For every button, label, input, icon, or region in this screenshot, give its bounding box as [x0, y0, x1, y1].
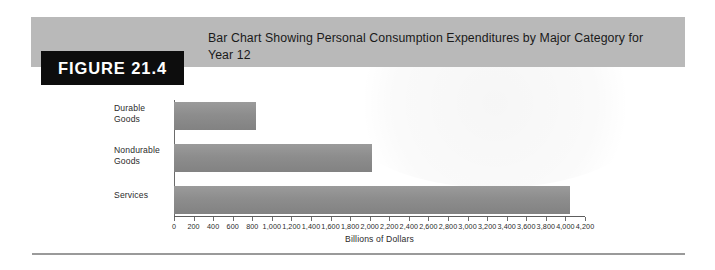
x-axis-tick-label: 2,800: [439, 222, 458, 231]
x-axis-tick-label: 3,800: [537, 222, 556, 231]
x-axis-tick-label: 1,000: [263, 222, 282, 231]
x-axis-tick: [291, 217, 292, 221]
x-axis-line: [174, 216, 585, 217]
x-axis-tick: [428, 217, 429, 221]
x-axis-tick-label: 4,000: [556, 222, 575, 231]
category-label: Durable Goods: [114, 103, 172, 124]
x-axis-tick: [370, 217, 371, 221]
x-axis-tick: [468, 217, 469, 221]
bottom-divider: [32, 253, 685, 255]
x-axis-tick: [585, 217, 586, 221]
bar: [174, 102, 256, 130]
x-axis-tick-label: 2,000: [360, 222, 379, 231]
x-axis-tick-label: 2,200: [380, 222, 399, 231]
x-axis-tick: [194, 217, 195, 221]
x-axis-tick: [448, 217, 449, 221]
x-axis-tick-label: 3,400: [497, 222, 516, 231]
x-axis-tick: [252, 217, 253, 221]
x-axis-tick: [350, 217, 351, 221]
x-axis-tick-label: 800: [246, 222, 258, 231]
x-axis-tick: [565, 217, 566, 221]
x-axis-tick: [409, 217, 410, 221]
x-axis-tick: [507, 217, 508, 221]
x-axis-tick: [546, 217, 547, 221]
x-axis-tick-label: 3,200: [478, 222, 497, 231]
x-axis-tick-label: 4,200: [576, 222, 595, 231]
x-axis-tick: [233, 217, 234, 221]
bar-chart: Billions of Dollars Durable GoodsNondura…: [0, 0, 715, 270]
x-axis-tick-label: 3,600: [517, 222, 536, 231]
x-axis-tick-label: 1,200: [282, 222, 301, 231]
category-label: Nondurable Goods: [114, 145, 172, 166]
x-axis-tick: [331, 217, 332, 221]
x-axis-tick-label: 600: [227, 222, 239, 231]
x-axis-tick-label: 2,400: [400, 222, 419, 231]
x-axis-tick: [174, 217, 175, 221]
x-axis-tick-label: 1,600: [321, 222, 340, 231]
x-axis-tick: [213, 217, 214, 221]
x-axis-tick: [272, 217, 273, 221]
category-label: Services: [114, 190, 172, 201]
x-axis-tick: [487, 217, 488, 221]
x-axis-tick-label: 2,600: [419, 222, 438, 231]
x-axis-tick-label: 0: [172, 222, 176, 231]
x-axis-tick-label: 200: [187, 222, 199, 231]
bar: [174, 186, 570, 214]
x-axis-tick: [526, 217, 527, 221]
bar: [174, 144, 372, 172]
x-axis-tick-label: 400: [207, 222, 219, 231]
x-axis-tick-label: 1,800: [341, 222, 360, 231]
x-axis-tick: [311, 217, 312, 221]
x-axis-tick-label: 1,400: [302, 222, 321, 231]
x-axis-title: Billions of Dollars: [174, 234, 585, 244]
x-axis-tick: [389, 217, 390, 221]
x-axis-tick-label: 3,000: [458, 222, 477, 231]
